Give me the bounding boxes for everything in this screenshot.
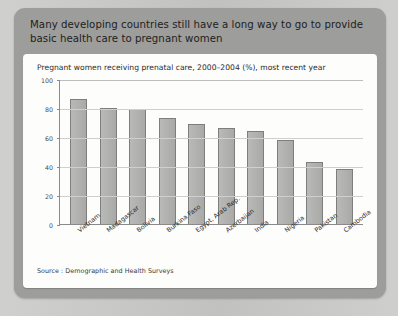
bar-series: [60, 80, 363, 224]
bar-slot: [300, 80, 330, 224]
bar-slot: [241, 80, 271, 224]
y-axis-tick-label: 80: [45, 106, 53, 113]
bar-madagascar: [100, 108, 117, 224]
x-label-slot: Azerbaijan: [211, 227, 241, 259]
source-note: Source : Demographic and Health Surveys: [37, 267, 174, 275]
y-axis-tick-label: 20: [45, 193, 53, 200]
gridline: [60, 167, 363, 168]
x-axis-labels: VietnamMadagascarBoliviaBurkina FasoEgyp…: [59, 227, 363, 259]
bar-slot: [64, 80, 94, 224]
figure-panel: Many developing countries still have a l…: [14, 8, 386, 298]
gridline: [60, 196, 363, 197]
plot-wrapper: 020406080100 VietnamMadagascarBoliviaBur…: [37, 80, 363, 258]
y-axis-tickmark: [57, 80, 60, 81]
x-label-slot: Pakistan: [300, 227, 330, 259]
bar-pakistan: [306, 162, 323, 224]
y-axis-tickmark: [57, 225, 60, 226]
y-axis-tickmark: [57, 167, 60, 168]
y-axis: 020406080100: [37, 80, 57, 225]
chart-card: Pregnant women receiving prenatal care, …: [23, 54, 377, 288]
x-label-slot: Bolivia: [122, 227, 152, 259]
gridline: [60, 138, 363, 139]
y-axis-tickmark: [57, 109, 60, 110]
gridline: [60, 109, 363, 110]
x-label-slot: Vietnam: [63, 227, 93, 259]
y-axis-tickmark: [57, 196, 60, 197]
y-axis-tickmark: [57, 138, 60, 139]
chart-subtitle: Pregnant women receiving prenatal care, …: [37, 63, 326, 72]
x-label-slot: India: [241, 227, 271, 259]
y-axis-tick-label: 0: [49, 222, 53, 229]
x-label-slot: Cambodia: [329, 227, 359, 259]
bar-nigeria: [277, 140, 294, 224]
bar-slot: [94, 80, 124, 224]
x-label-slot: Madagascar: [93, 227, 123, 259]
y-axis-tick-label: 60: [45, 135, 53, 142]
bar-slot: [330, 80, 360, 224]
x-label-slot: Egypt, Arab Rep.: [181, 227, 211, 259]
bar-slot: [123, 80, 153, 224]
bar-burkina-faso: [159, 118, 176, 224]
y-axis-tick-label: 40: [45, 164, 53, 171]
x-label-slot: Burkina Faso: [152, 227, 182, 259]
gridline: [60, 80, 363, 81]
plot-area: [59, 80, 363, 225]
x-label-slot: Nigeria: [270, 227, 300, 259]
y-axis-tick-label: 100: [41, 77, 53, 84]
bar-vietnam: [70, 99, 87, 224]
bar-slot: [271, 80, 301, 224]
figure-title: Many developing countries still have a l…: [30, 18, 370, 45]
bar-slot: [153, 80, 183, 224]
